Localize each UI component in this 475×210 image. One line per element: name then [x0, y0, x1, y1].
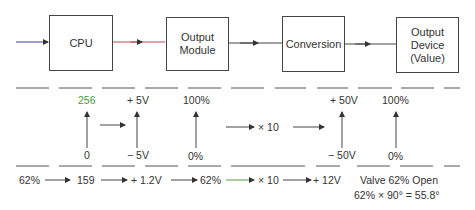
device-pct-top: 100% [382, 94, 409, 106]
example-input-pct: 62% [19, 174, 40, 186]
example-result-line2: 62% × 90° = 55.8° [354, 189, 439, 201]
example-cpu-value: 159 [77, 174, 95, 186]
example-module-pct: 62% [200, 174, 221, 186]
cpu-range-bottom: 0 [84, 149, 90, 161]
conversion-block: Conversion [282, 16, 345, 72]
example-module-volts: + 1.2V [131, 174, 162, 186]
output-module-block: Output Module [166, 17, 229, 71]
cpu-range-top: 256 [78, 94, 96, 106]
cpu-label: CPU [69, 37, 92, 50]
example-result-line1: Valve 62% Open [360, 174, 438, 186]
example-multiplier: × 10 [258, 174, 279, 186]
module-volts-top: + 5V [127, 94, 149, 106]
conv-volts-top: + 50V [330, 94, 358, 106]
output-device-block: Output Device (Value) [396, 17, 459, 73]
multiplier-label: × 10 [258, 121, 279, 133]
conv-volts-bottom: − 50V [328, 149, 356, 161]
conversion-label: Conversion [286, 38, 342, 51]
module-volts-bottom: − 5V [127, 149, 149, 161]
example-output-volts: + 12V [313, 174, 341, 186]
module-pct-top: 100% [183, 94, 210, 106]
module-pct-bottom: 0% [188, 150, 203, 162]
output-module-label: Output Module [179, 31, 215, 57]
output-device-label: Output Device (Value) [410, 26, 445, 65]
device-pct-bottom: 0% [388, 150, 403, 162]
cpu-block: CPU [49, 15, 113, 71]
